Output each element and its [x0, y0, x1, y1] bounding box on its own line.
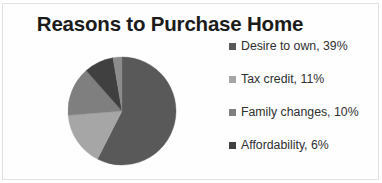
legend-item[interactable]: Family changes, 10% [229, 105, 359, 119]
legend-item[interactable]: Desire to own, 39% [229, 39, 348, 53]
legend-item-label: Family changes, 10% [241, 105, 359, 119]
legend-item[interactable]: Tax credit, 11% [229, 72, 324, 86]
legend-item-label: Affordability, 6% [241, 138, 329, 152]
legend-swatch-icon [229, 43, 236, 50]
legend-item-label: Desire to own, 39% [241, 39, 348, 53]
chart-screenshot: Reasons to Purchase Home Desire to own, … [0, 0, 382, 183]
legend-swatch-icon [229, 142, 236, 149]
legend-swatch-icon [229, 76, 236, 83]
legend-swatch-icon [229, 109, 236, 116]
chart-title: Reasons to Purchase Home [0, 12, 340, 36]
pie-chart [62, 52, 182, 172]
chart-legend: Desire to own, 39% Tax credit, 11% Famil… [229, 37, 379, 172]
legend-item[interactable]: Affordability, 6% [229, 138, 329, 152]
legend-item-label: Tax credit, 11% [241, 72, 324, 86]
pie-plot-area [62, 52, 182, 172]
